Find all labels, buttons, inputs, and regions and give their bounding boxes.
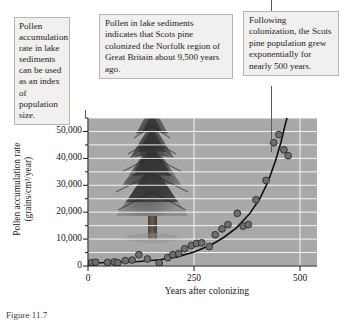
callout-right-text: Following colonization, the Scots pine p…	[249, 15, 334, 72]
data-point	[129, 257, 136, 264]
data-point	[175, 250, 182, 257]
y-tick-label: 0	[30, 261, 82, 270]
x-tick-label: 250	[174, 274, 214, 283]
data-point	[253, 196, 260, 203]
y-tick-label: 50,000	[30, 126, 82, 135]
data-point	[281, 146, 288, 153]
data-point	[122, 257, 129, 264]
callout-middle-text: Pollen in lake sediments indicates that …	[105, 18, 228, 75]
x-tick-label: 0	[68, 274, 108, 283]
callout-right: Following colonization, the Scots pine p…	[243, 11, 339, 76]
data-point	[245, 221, 252, 228]
data-point	[219, 225, 226, 232]
y-tick-label: 20,000	[30, 207, 82, 216]
callout-middle: Pollen in lake sediments indicates that …	[99, 14, 233, 79]
y-tick-label: 10,000	[30, 234, 82, 243]
data-point	[92, 259, 99, 266]
data-point	[104, 259, 111, 266]
data-point	[212, 231, 219, 238]
data-point	[198, 239, 205, 246]
data-point	[156, 260, 163, 266]
x-axis-title: Years after colonizing	[112, 285, 302, 296]
callout-left-text: Pollen accumulation rate in lake sedimen…	[19, 21, 66, 121]
data-point	[225, 221, 232, 228]
callout-left-leader-line	[85, 110, 86, 118]
x-tick-label: 500	[280, 274, 320, 283]
data-point	[181, 245, 188, 252]
callout-left: Pollen accumulation rate in lake sedimen…	[14, 17, 70, 125]
callout-right-leader-line-bottom	[271, 86, 272, 152]
data-point	[275, 131, 282, 138]
data-point	[206, 243, 213, 250]
data-point	[285, 152, 292, 159]
y-tick-label: 40,000	[30, 153, 82, 162]
figure-caption: Figure 11.7	[6, 310, 47, 320]
exponential-growth-curve	[88, 118, 288, 263]
data-point	[144, 256, 151, 263]
data-point	[114, 259, 121, 266]
y-tick-label: 30,000	[30, 180, 82, 189]
data-point	[234, 210, 241, 217]
plot-area	[88, 118, 317, 266]
plot-data-layer	[88, 118, 317, 266]
data-point	[263, 177, 270, 184]
data-point	[135, 251, 142, 258]
